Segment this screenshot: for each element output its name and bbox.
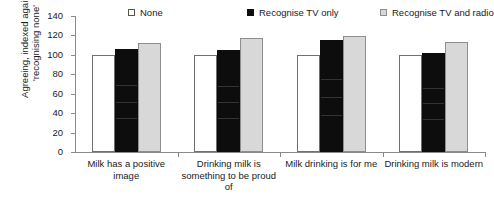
bar-none xyxy=(297,55,320,152)
bar-none xyxy=(92,55,115,152)
bar-tvradio xyxy=(138,43,161,152)
y-axis-tick-label: 140 xyxy=(29,11,63,21)
bar-group xyxy=(297,16,366,152)
x-axis-category-label: Milk has a positive image xyxy=(75,158,178,181)
y-axis-tick-label: 60 xyxy=(29,89,63,99)
bar-tvradio xyxy=(240,38,263,152)
x-axis-category-label: Milk drinking is for me xyxy=(280,158,383,170)
y-axis-tick xyxy=(71,74,75,75)
scan-artifact-line xyxy=(116,102,137,103)
scan-artifact-line xyxy=(321,97,342,98)
bar-tvradio xyxy=(445,42,468,152)
scan-artifact-line xyxy=(321,79,342,80)
y-axis-tick xyxy=(71,113,75,114)
y-axis-tick xyxy=(71,152,75,153)
legend-swatch-recognise-tv-and-radio xyxy=(380,9,387,16)
y-axis-tick-label: 80 xyxy=(29,69,63,79)
scan-artifact-line xyxy=(116,85,137,86)
bar-group xyxy=(399,16,468,152)
bar-tv xyxy=(422,53,445,152)
y-axis-tick-label: 120 xyxy=(29,30,63,40)
y-axis-tick xyxy=(71,94,75,95)
y-axis-tick-label: 0 xyxy=(29,147,63,157)
scan-artifact-line xyxy=(218,86,239,87)
y-axis-tick xyxy=(71,133,75,134)
y-axis-tick-label: 100 xyxy=(29,50,63,60)
y-axis-tick xyxy=(71,35,75,36)
bar-group xyxy=(92,16,161,152)
x-axis-category-label: Drinking milk is modern xyxy=(383,158,486,170)
y-axis-tick xyxy=(71,55,75,56)
bar-none xyxy=(399,55,422,152)
scan-artifact-line xyxy=(423,88,444,89)
bar-tvradio xyxy=(343,36,366,152)
bar-group xyxy=(194,16,263,152)
x-axis-tick xyxy=(485,152,486,157)
scan-artifact-line xyxy=(116,118,137,119)
bar-tv xyxy=(320,40,343,152)
x-axis-tick xyxy=(178,152,179,157)
scan-artifact-line xyxy=(423,119,444,120)
plot-area: 020406080100120140 xyxy=(75,16,485,152)
legend-swatch-none xyxy=(128,9,135,16)
x-axis-category-label: Drinking milk is something to be proud o… xyxy=(178,158,281,193)
scan-artifact-line xyxy=(321,115,342,116)
scan-artifact-line xyxy=(218,118,239,119)
scan-artifact-line xyxy=(218,102,239,103)
y-axis-line xyxy=(75,16,76,152)
legend-swatch-recognise-tv-only xyxy=(247,9,254,16)
scan-artifact-line xyxy=(423,103,444,104)
x-axis-tick xyxy=(383,152,384,157)
y-axis-tick-label: 40 xyxy=(29,108,63,118)
x-axis-tick xyxy=(280,152,281,157)
bar-tv xyxy=(115,49,138,152)
y-axis-tick-label: 20 xyxy=(29,128,63,138)
bar-none xyxy=(194,55,217,152)
x-axis-category-labels: Milk has a positive imageDrinking milk i… xyxy=(75,158,485,200)
y-axis-tick xyxy=(71,16,75,17)
bar-tv xyxy=(217,50,240,152)
